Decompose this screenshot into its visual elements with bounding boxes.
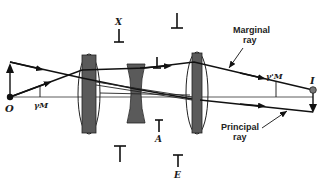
marginal-ray-leader [229,48,243,68]
image-angle-label: γ'M [266,71,284,81]
image-point-icon [310,87,317,94]
stop-e-mark [173,155,183,167]
optical-diagram: O I γM γ'M X A E Marginal ray Principal … [0,0,325,185]
principal-ray-label-line2: ray [233,132,247,142]
stop-x-mark [114,29,124,42]
principal-ray-leader [262,111,287,128]
image-label: I [309,75,315,86]
stop-upper-right-mark [171,13,183,28]
positive-lens-1 [78,54,100,134]
stop-a-mark [155,120,163,132]
stop-e-label: E [173,170,181,180]
principal-ray-label-line1: Principal [221,122,259,132]
object-label: O [5,103,14,114]
marginal-ray-label-line1: Marginal [233,25,270,35]
stop-lower-left-mark [114,146,126,162]
object-arrow [6,63,14,97]
object-angle-label: γM [34,100,49,110]
marginal-ray-label-line2: ray [243,35,257,45]
stop-a-label: A [154,134,162,144]
stop-x-label: X [114,17,123,27]
principal-ray [200,100,313,112]
